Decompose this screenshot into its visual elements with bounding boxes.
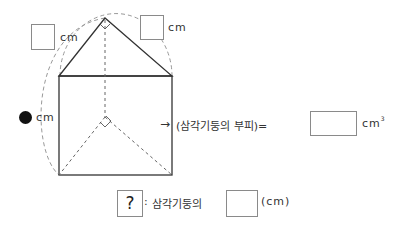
top-left-answer-box[interactable] — [31, 24, 55, 50]
legend-text: 삼각기둥의 — [152, 195, 202, 211]
arrow-icon: → — [160, 117, 171, 131]
height-unit: cm — [36, 111, 55, 124]
volume-formula-label: (삼각기둥의 부피)= — [176, 117, 267, 133]
top-left-unit: cm — [60, 31, 79, 44]
height-marker-dot — [19, 111, 32, 124]
question-symbol-box: ? — [117, 190, 143, 217]
volume-answer-box[interactable] — [310, 111, 357, 136]
legend-answer-box[interactable] — [226, 190, 258, 217]
top-right-answer-box[interactable] — [140, 15, 164, 40]
legend-colon: : — [144, 195, 149, 208]
legend-unit: (cm) — [261, 195, 290, 208]
volume-unit: cm3 — [362, 117, 386, 130]
top-right-unit: cm — [168, 21, 187, 34]
